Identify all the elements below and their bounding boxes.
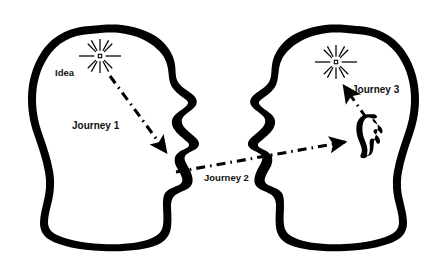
journey1-label: Journey 1 bbox=[72, 120, 120, 131]
understanding-starburst-icon bbox=[315, 45, 357, 79]
communication-journey-diagram: Idea Journey 1 Journey 2 Journey 3 bbox=[0, 0, 447, 261]
journey2-label: Journey 2 bbox=[204, 172, 249, 183]
ear-icon bbox=[356, 114, 382, 158]
diagram-canvas: Idea Journey 1 Journey 2 Journey 3 bbox=[0, 0, 447, 261]
idea-starburst-icon bbox=[79, 39, 121, 73]
journey3-label: Journey 3 bbox=[352, 84, 400, 95]
listener-head bbox=[248, 25, 419, 252]
journey1-arrow bbox=[110, 76, 166, 152]
idea-label: Idea bbox=[55, 67, 75, 78]
speaker-head bbox=[28, 25, 199, 252]
